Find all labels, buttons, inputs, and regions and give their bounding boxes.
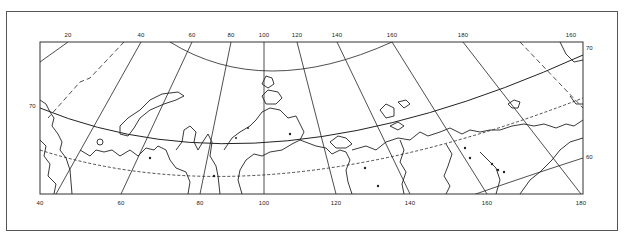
lon-label-top: 160 [566, 32, 577, 38]
boundary-dashed-right [520, 42, 583, 108]
lat-label-left-70: 70 [29, 103, 36, 109]
lon-label-bottom: 60 [117, 200, 124, 206]
lon-label-bottom: 80 [196, 200, 203, 206]
lon-label-top: 60 [188, 32, 195, 38]
lon-label-top: 100 [259, 32, 270, 38]
lon-label-bottom: 180 [576, 200, 587, 206]
boundary-dashed-left [48, 42, 124, 118]
lon-label-bottom: 140 [405, 200, 416, 206]
lon-label-top: 160 [387, 32, 398, 38]
lon-label-bottom: 160 [482, 200, 493, 206]
parallel-60 [470, 158, 583, 196]
lon-label-bottom: 100 [259, 200, 270, 206]
lon-label-top: 180 [458, 32, 469, 38]
lon-label-top: 40 [137, 32, 144, 38]
meridians [40, 42, 581, 194]
lon-label-bottom: 40 [36, 200, 43, 206]
lat-label-right-60: 60 [586, 154, 593, 160]
lon-label-top: 20 [64, 32, 71, 38]
lon-label-bottom: 120 [331, 200, 342, 206]
lon-label-top: 140 [332, 32, 343, 38]
parallel-80 [170, 42, 392, 71]
arctic-circle [40, 98, 583, 176]
lon-label-top: 80 [227, 32, 234, 38]
lat-label-right-70: 70 [586, 45, 593, 51]
coastlines [40, 42, 583, 194]
map-canvas [0, 0, 629, 244]
lon-label-top: 120 [292, 32, 303, 38]
map-border [40, 42, 583, 194]
